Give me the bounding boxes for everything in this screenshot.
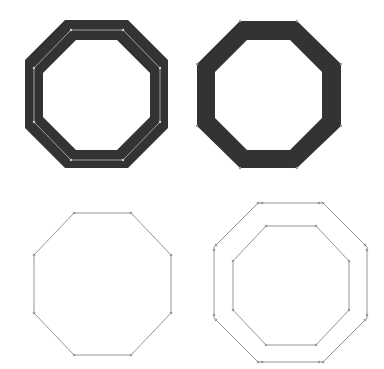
expanded-anchors <box>196 20 342 169</box>
octagon-diagram <box>0 0 384 369</box>
outer-octagon-outline <box>214 203 367 362</box>
thin-octagon-anchors <box>33 212 173 357</box>
thin-octagon <box>34 213 171 355</box>
inner-octagon-outline <box>233 226 349 345</box>
panel-expanded-stroke <box>196 20 342 169</box>
expanded-octagon-ring <box>197 21 341 168</box>
panel-outlined-paths <box>213 202 369 364</box>
panel-thick-stroke-with-path <box>25 20 168 168</box>
panel-single-path <box>33 212 173 357</box>
thick-octagon-ring <box>25 20 168 168</box>
